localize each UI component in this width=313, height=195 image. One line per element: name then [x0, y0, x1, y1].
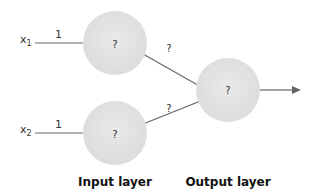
- output-arrow-head: [292, 86, 301, 94]
- output-layer-label: Output layer: [185, 175, 270, 189]
- input-weight-2: 1: [55, 118, 62, 131]
- input-x2-label: x2: [20, 123, 32, 138]
- weight-node1-output: ?: [166, 43, 171, 54]
- edge-node2-output: [143, 100, 203, 124]
- network-diagram: [0, 0, 313, 195]
- input-node-2-label: ?: [112, 129, 117, 140]
- output-node-label: ?: [225, 85, 230, 96]
- weight-node2-output: ?: [166, 103, 171, 114]
- input-x1-label: x1: [20, 33, 32, 48]
- input-weight-1: 1: [55, 28, 62, 41]
- input-layer-label: Input layer: [78, 175, 152, 189]
- input-node-1-label: ?: [112, 39, 117, 50]
- edge-node1-output: [143, 54, 203, 88]
